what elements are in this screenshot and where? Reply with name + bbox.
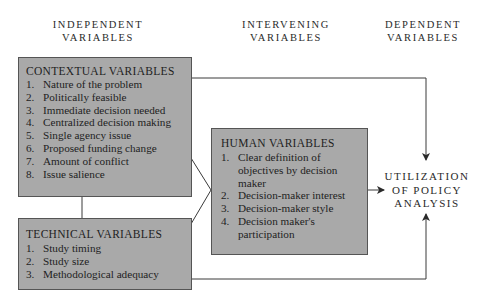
human-variables-box: HUMAN VARIABLES 1.Clear definition of ob… [211,128,368,255]
contextual-variables-box: CONTEXTUAL VARIABLES 1.Nature of the pro… [18,57,192,197]
technical-variables-box: TECHNICAL VARIABLES 1.Study timing 2.Stu… [18,218,192,290]
list-item: 1.Study timing [26,242,191,255]
list-item: 4.Decision maker's participation [221,215,361,241]
list-item: 3.Methodological adequacy [26,268,191,281]
list-item: 4.Centralized decision making [26,116,191,129]
list-item: 5.Single agency issue [26,129,191,142]
outcome-line3: ANALYSIS [381,197,473,211]
list-item: 3.Immediate decision needed [26,104,191,117]
list-item: 6.Proposed funding change [26,142,191,155]
list-item: 1.Clear definition of objectives by deci… [221,151,361,189]
list-item: 3.Decision-maker style [221,202,361,215]
list-item: 2.Decision-maker interest [221,189,361,202]
list-item: 2.Study size [26,255,191,268]
technical-to-human-line [191,190,211,224]
list-item: 8.Issue salience [26,168,191,181]
human-variables-list: 1.Clear definition of objectives by deci… [221,151,361,241]
human-variables-title: HUMAN VARIABLES [221,136,361,150]
technical-variables-title: TECHNICAL VARIABLES [26,227,191,241]
contextual-variables-list: 1.Nature of the problem 2.Politically fe… [26,78,191,180]
technical-variables-list: 1.Study timing 2.Study size 3.Methodolog… [26,242,191,280]
outcome-line1: UTILIZATION [381,170,473,184]
list-item: 2.Politically feasible [26,91,191,104]
list-item: 7.Amount of conflict [26,155,191,168]
contextual-to-human-line [191,158,211,190]
list-item: 1.Nature of the problem [26,78,191,91]
outcome-utilization-of-policy-analysis: UTILIZATION OF POLICY ANALYSIS [381,170,473,211]
outcome-line2: OF POLICY [381,184,473,198]
contextual-variables-title: CONTEXTUAL VARIABLES [26,64,191,78]
